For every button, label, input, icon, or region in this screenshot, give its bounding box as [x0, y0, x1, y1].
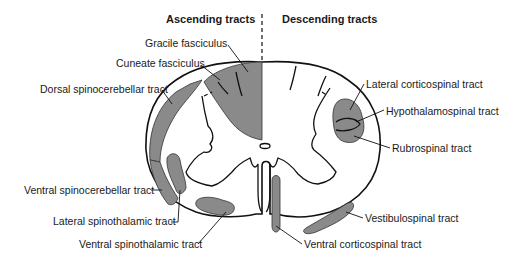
label-lateral-corticospinal-tract: Lateral corticospinal tract	[366, 78, 483, 90]
leader-ventral-spinothalamic	[198, 212, 226, 244]
ventral-corticospinal-tract-area	[272, 176, 280, 233]
descending-tracts-header: Descending tracts	[282, 13, 377, 25]
label-rubrospinal-tract: Rubrospinal tract	[392, 142, 471, 154]
leader-ventral-corticospinal	[276, 226, 302, 244]
leader-vestibulospinal	[346, 212, 363, 218]
label-cuneate-fasciculus: Cuneate fasciculus	[116, 57, 205, 69]
ascending-tracts-header: Ascending tracts	[166, 13, 255, 25]
label-gracile-fasciculus: Gracile fasciculus	[145, 37, 227, 49]
spinal-cord-cross-section-diagram: Ascending tracts Descending tracts G	[0, 0, 519, 270]
label-vestibulospinal-tract: Vestibulospinal tract	[365, 212, 458, 224]
label-ventral-spinocerebellar-tract: Ventral spinocerebellar tract	[24, 184, 154, 196]
label-ventral-spinothalamic-tract: Ventral spinothalamic tract	[79, 238, 202, 250]
label-lateral-spinothalamic-tract: Lateral spinothalamic tract	[53, 215, 176, 227]
label-hypothalamospinal-tract: Hypothalamospinal tract	[386, 105, 499, 117]
label-ventral-corticospinal-tract: Ventral corticospinal tract	[304, 238, 421, 250]
label-dorsal-spinocerebellar-tract: Dorsal spinocerebellar tract	[40, 83, 168, 95]
